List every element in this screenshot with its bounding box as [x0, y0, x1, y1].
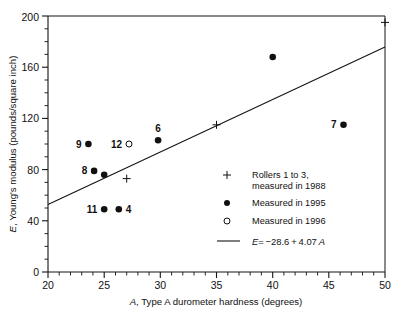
- x-tick-labels: 20 25 30 35 40 45 50: [42, 279, 391, 291]
- x-axis-title-text: , Type A durometer hardness (degrees): [136, 296, 302, 307]
- series-measured-1996-markers: [126, 141, 132, 147]
- y-tick-label: 40: [27, 215, 39, 227]
- x-tick-label: 40: [267, 279, 279, 291]
- data-point-open: [126, 141, 132, 147]
- y-tick-labels: 0 40 80 120 160 200: [21, 11, 39, 279]
- y-tick-label: 160: [21, 61, 39, 73]
- y-tick-label: 120: [21, 112, 39, 124]
- equation-symbol-a: A: [318, 236, 325, 247]
- legend-label-rollers-line1: Rollers 1 to 3,: [252, 170, 309, 180]
- equation-body: = −28.6 + 4.07: [258, 236, 318, 247]
- data-point-filled: [85, 141, 92, 148]
- scatter-plot: 0 40 80 120 160 200 20 25 30 35 40 45 50…: [0, 0, 408, 313]
- data-point-plus: [213, 121, 221, 129]
- data-point-filled: [91, 168, 98, 175]
- plot-frame: [48, 16, 385, 272]
- figure-container: 0 40 80 120 160 200 20 25 30 35 40 45 50…: [0, 0, 408, 313]
- x-tick-label: 45: [323, 279, 335, 291]
- y-axis-title: E, Young's modulus (pounds/square inch): [7, 56, 18, 233]
- x-tick-label: 30: [154, 279, 166, 291]
- data-point-label: 4: [126, 204, 132, 215]
- y-axis-title-text: , Young's modulus (pounds/square inch): [7, 56, 18, 226]
- legend-marker-plus: [223, 171, 231, 179]
- y-tick-label: 200: [21, 11, 39, 23]
- data-point-filled: [340, 122, 347, 129]
- data-point-plus: [123, 175, 131, 183]
- legend-label-measured-1996: Measured in 1996: [252, 216, 326, 226]
- legend-marker-filled-circle: [224, 200, 230, 206]
- x-axis-title-symbol: A: [129, 296, 136, 307]
- x-axis-title: A, Type A durometer hardness (degrees): [129, 296, 303, 307]
- y-tick-label: 80: [27, 164, 39, 176]
- data-point-label: 7: [331, 119, 337, 130]
- svg-text:E, Young's modulus (pounds/squ: E, Young's modulus (pounds/square inch): [7, 56, 18, 233]
- data-point-filled: [155, 137, 162, 144]
- data-point-label: 6: [155, 123, 161, 134]
- legend-marker-open-circle: [224, 218, 230, 224]
- x-axis-major-ticks: [48, 272, 385, 278]
- data-point-filled: [101, 171, 108, 178]
- x-tick-label: 20: [42, 279, 54, 291]
- legend: Rollers 1 to 3, measured in 1988 Measure…: [217, 170, 326, 247]
- legend-label-measured-1995: Measured in 1995: [252, 198, 326, 208]
- data-point-label: 11: [87, 204, 98, 215]
- x-tick-label: 35: [211, 279, 223, 291]
- data-point-filled: [116, 206, 123, 213]
- data-point-filled: [269, 54, 276, 61]
- data-point-label: 12: [111, 139, 123, 150]
- series-rollers-1988-markers: [123, 18, 389, 182]
- svg-text:A, Type A durometer hardness (: A, Type A durometer hardness (degrees): [129, 296, 303, 307]
- legend-label-rollers-line2: measured in 1988: [252, 181, 326, 191]
- x-tick-label: 25: [98, 279, 110, 291]
- legend-label-equation: E= −28.6 + 4.07 A: [252, 236, 325, 247]
- y-tick-label: 0: [33, 266, 39, 278]
- data-point-label: 8: [82, 165, 88, 176]
- data-point-plus: [381, 18, 389, 26]
- data-point-filled: [101, 206, 108, 213]
- data-point-label: 9: [76, 139, 82, 150]
- x-tick-label: 50: [379, 279, 391, 291]
